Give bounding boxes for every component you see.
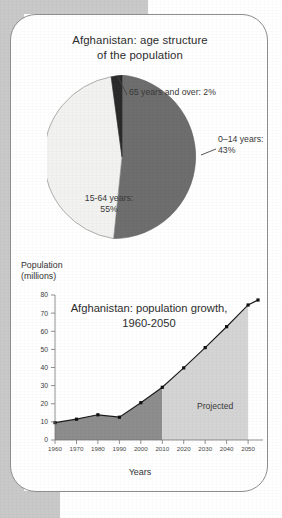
svg-text:1980: 1980 bbox=[91, 445, 105, 452]
projected-area-label: Projected bbox=[197, 401, 233, 411]
pie-label-15-64-line-2: 55% bbox=[100, 204, 117, 214]
leader-line-0-14-years bbox=[201, 149, 216, 155]
growth-title-line-1: Afghanistan: population growth, bbox=[71, 302, 228, 314]
svg-text:1990: 1990 bbox=[113, 445, 127, 452]
svg-text:70: 70 bbox=[40, 310, 48, 317]
svg-text:1960: 1960 bbox=[48, 445, 62, 452]
pie-label-0-14-years: 0–14 years: 43% bbox=[218, 134, 263, 155]
pie-chart-graphic bbox=[47, 75, 197, 239]
x-axis-title: Years bbox=[11, 467, 268, 477]
pie-chart-title: Afghanistan: age structure of the popula… bbox=[11, 33, 268, 62]
page-root: Afghanistan: age structure of the popula… bbox=[0, 0, 282, 518]
svg-text:2030: 2030 bbox=[198, 445, 212, 452]
growth-chart-title: Afghanistan: population growth, 1960-205… bbox=[49, 301, 249, 330]
growth-title-line-2: 1960-2050 bbox=[122, 317, 176, 329]
pie-title-line-2: of the population bbox=[97, 49, 183, 61]
svg-text:60: 60 bbox=[40, 328, 48, 335]
svg-text:20: 20 bbox=[40, 400, 48, 407]
area-historical bbox=[55, 387, 162, 440]
figure-card: Afghanistan: age structure of the popula… bbox=[10, 14, 268, 492]
pie-slice-15-64-years bbox=[47, 77, 122, 239]
pie-label-0-14-line-2: 43% bbox=[218, 145, 235, 155]
svg-text:2050: 2050 bbox=[241, 445, 255, 452]
svg-text:2010: 2010 bbox=[155, 445, 169, 452]
svg-text:2000: 2000 bbox=[134, 445, 148, 452]
pie-chart-block: Afghanistan: age structure of the popula… bbox=[11, 15, 268, 253]
pie-slice-0-14-years bbox=[114, 75, 196, 239]
y-axis-tick-labels: 80 70 60 50 40 30 20 10 0 bbox=[40, 291, 48, 443]
x-axis-ticks bbox=[55, 440, 248, 444]
pie-label-0-14-line-1: 0–14 years: bbox=[218, 134, 263, 144]
svg-text:1970: 1970 bbox=[70, 445, 84, 452]
pie-label-65-and-over: 65 years and over: 2% bbox=[129, 87, 216, 98]
x-axis-tick-labels: 1960 1970 1980 1990 2000 2010 2020 2030 … bbox=[48, 445, 255, 452]
page-margin-top bbox=[0, 0, 148, 14]
pie-label-15-64-years: 15-64 years: 55% bbox=[73, 193, 145, 214]
svg-text:80: 80 bbox=[40, 291, 48, 298]
population-growth-graphic: 80 70 60 50 40 30 20 10 0 bbox=[11, 253, 268, 492]
svg-text:50: 50 bbox=[40, 346, 48, 353]
population-growth-block: Population (millions) bbox=[11, 253, 268, 492]
svg-text:0: 0 bbox=[44, 436, 48, 443]
page-margin-bottom bbox=[0, 491, 60, 518]
svg-text:2020: 2020 bbox=[177, 445, 191, 452]
pie-label-15-64-line-1: 15-64 years: bbox=[85, 193, 133, 203]
svg-text:2040: 2040 bbox=[220, 445, 234, 452]
svg-text:40: 40 bbox=[40, 364, 48, 371]
svg-text:10: 10 bbox=[40, 418, 48, 425]
pie-title-line-1: Afghanistan: age structure bbox=[72, 34, 208, 46]
svg-text:30: 30 bbox=[40, 382, 48, 389]
